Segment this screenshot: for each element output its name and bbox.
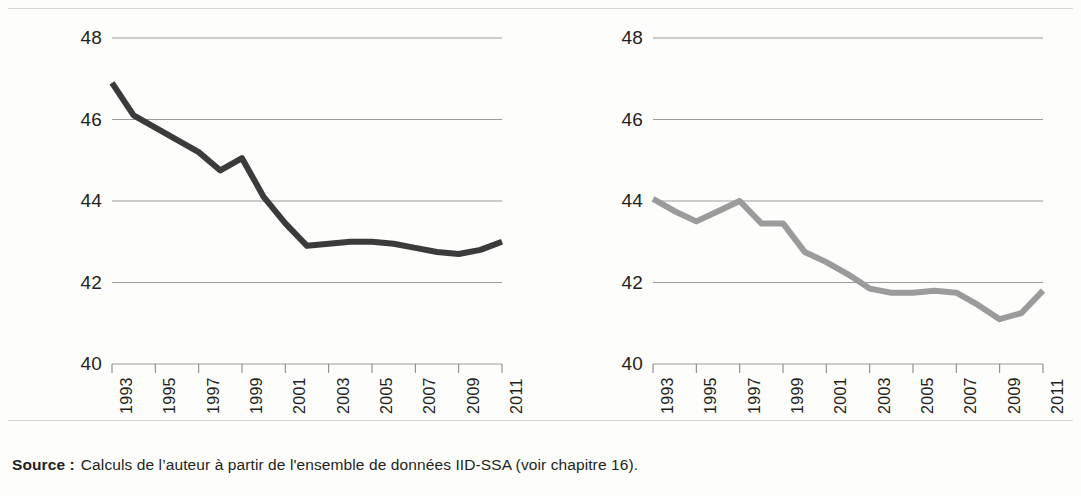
x-tick-label-1997: 1997: [747, 377, 763, 414]
x-tick-label-2003: 2003: [336, 377, 352, 414]
y-tick-label-44: 44: [597, 191, 643, 210]
y-tick-label-44: 44: [56, 191, 102, 210]
x-tick-label-2001: 2001: [833, 377, 849, 414]
source-label: Source :: [12, 456, 75, 473]
y-tick-label-48: 48: [56, 28, 102, 47]
bottom-divider-rule: [8, 420, 1073, 421]
x-tick-label-2009: 2009: [1007, 377, 1023, 414]
x-tick-label-1999: 1999: [249, 377, 265, 414]
y-tick-label-46: 46: [597, 110, 643, 129]
y-tick-label-48: 48: [597, 28, 643, 47]
x-tick-label-1997: 1997: [206, 377, 222, 414]
x-tick-label-1993: 1993: [660, 377, 676, 414]
x-tick-label-2003: 2003: [877, 377, 893, 414]
y-tick-label-42: 42: [597, 273, 643, 292]
y-tick-label-40: 40: [597, 354, 643, 373]
source-text: Calculs de l’auteur à partir de l'ensemb…: [81, 456, 638, 473]
x-tick-label-1993: 1993: [119, 377, 135, 414]
x-tick-label-2007: 2007: [422, 377, 438, 414]
y-tick-label-42: 42: [56, 273, 102, 292]
x-tick-label-2011: 2011: [509, 378, 525, 414]
x-tick-label-1999: 1999: [790, 377, 806, 414]
y-tick-label-46: 46: [56, 110, 102, 129]
chart-panels: 4042444648199319951997199920012003200520…: [0, 0, 1081, 420]
series-line-left-series: [112, 83, 502, 254]
x-tick-label-2009: 2009: [466, 377, 482, 414]
y-tick-label-40: 40: [56, 354, 102, 373]
x-tick-label-2011: 2011: [1050, 378, 1066, 414]
figure-container: 4042444648199319951997199920012003200520…: [0, 0, 1081, 496]
series-line-right-series: [653, 199, 1043, 319]
x-tick-label-2005: 2005: [920, 377, 936, 414]
source-note: Source :Calculs de l’auteur à partir de …: [12, 455, 638, 475]
x-tick-label-1995: 1995: [703, 377, 719, 414]
chart-panel-right: 4042444648199319951997199920012003200520…: [541, 0, 1081, 420]
x-tick-label-1995: 1995: [162, 377, 178, 414]
x-tick-label-2005: 2005: [379, 377, 395, 414]
x-tick-label-2007: 2007: [963, 377, 979, 414]
chart-panel-left: 4042444648199319951997199920012003200520…: [0, 0, 540, 420]
x-tick-label-2001: 2001: [292, 377, 308, 414]
